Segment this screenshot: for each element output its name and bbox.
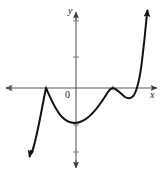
y-axis bbox=[73, 12, 79, 168]
polynomial-curve bbox=[30, 10, 148, 157]
y-axis-label: y bbox=[68, 6, 72, 16]
curve-arrow-upper-right bbox=[147, 10, 148, 16]
x-axis-label: x bbox=[150, 90, 154, 100]
plot-canvas bbox=[0, 0, 160, 173]
curve-arrow-lower-left bbox=[30, 150, 32, 157]
curve-path bbox=[32, 14, 147, 152]
origin-label: 0 bbox=[65, 90, 70, 100]
x-axis bbox=[6, 85, 157, 91]
graph-figure: y x 0 bbox=[0, 0, 160, 173]
